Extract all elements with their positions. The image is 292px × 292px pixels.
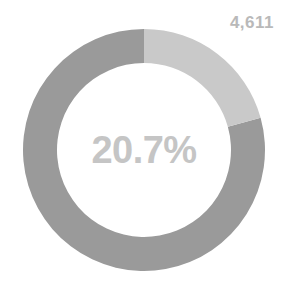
donut-chart-svg [0, 0, 292, 292]
donut-chart: 4,611 20.7% [0, 0, 292, 292]
donut-slices [23, 29, 265, 271]
donut-slice-highlight[interactable] [144, 29, 261, 127]
